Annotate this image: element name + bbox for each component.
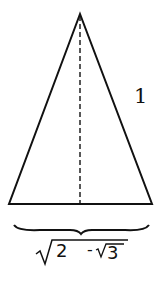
curly-brace [14, 225, 149, 234]
minus-sign: - [87, 240, 93, 259]
outer-radicand: 2 [56, 240, 67, 261]
side-length-label: 1 [134, 84, 147, 108]
triangle-diagram [0, 0, 161, 289]
inner-radicand: 3 [107, 242, 118, 263]
